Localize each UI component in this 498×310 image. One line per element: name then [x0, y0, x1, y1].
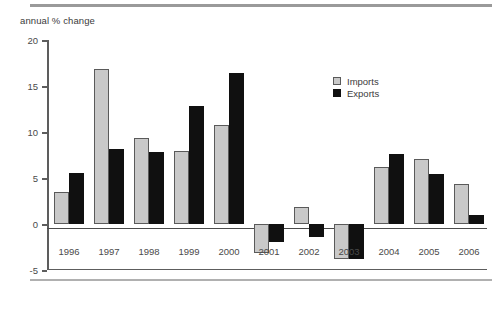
y-tick-mark — [42, 178, 47, 180]
legend-swatch-icon-exports — [333, 89, 341, 97]
bar-imports-2000 — [214, 125, 229, 224]
x-tick-label-1998: 1998 — [138, 246, 159, 257]
y-tick-label: 20 — [27, 35, 38, 46]
y-tick-label: 10 — [27, 127, 38, 138]
y-tick-mark — [42, 86, 47, 88]
y-tick-label: 0 — [33, 219, 38, 230]
bar-exports-2001 — [269, 224, 284, 242]
y-axis-caption: annual % change — [20, 15, 95, 26]
legend-item-exports[interactable]: Exports — [333, 87, 379, 99]
bar-exports-1997 — [109, 149, 124, 224]
x-tick-label-2002: 2002 — [298, 246, 319, 257]
chart-plot-area: 20151050-5 — [47, 40, 487, 270]
y-tick-label: 15 — [27, 81, 38, 92]
y-tick-mark — [42, 270, 47, 272]
x-tick-label-1999: 1999 — [178, 246, 199, 257]
top-divider-rule — [30, 4, 492, 7]
legend-label-imports: Imports — [347, 76, 379, 87]
bar-exports-1998 — [149, 152, 164, 224]
legend-label-exports: Exports — [347, 88, 379, 99]
chart-legend: Imports Exports — [333, 75, 379, 99]
y-axis-spine — [47, 40, 49, 270]
bar-imports-2004 — [374, 167, 389, 224]
x-tick-label-2006: 2006 — [458, 246, 479, 257]
y-tick-mark — [42, 132, 47, 134]
bar-exports-2006 — [469, 215, 484, 224]
y-tick-label: 5 — [33, 173, 38, 184]
x-tick-label-2001: 2001 — [258, 246, 279, 257]
legend-swatch-icon-imports — [333, 77, 341, 85]
bar-imports-2002 — [294, 207, 309, 224]
bar-exports-2004 — [389, 154, 404, 224]
x-tick-label-2005: 2005 — [418, 246, 439, 257]
y-tick-label: -5 — [30, 265, 38, 276]
y-tick-mark — [42, 40, 47, 42]
y-tick-mark — [42, 224, 47, 226]
x-tick-label-2004: 2004 — [378, 246, 399, 257]
x-tick-label-2003: 2003 — [338, 246, 359, 257]
bar-imports-1997 — [94, 69, 109, 224]
bar-imports-1996 — [54, 192, 69, 224]
bar-exports-2005 — [429, 174, 444, 224]
bar-exports-2002 — [309, 224, 324, 237]
x-tick-label-2000: 2000 — [218, 246, 239, 257]
bar-exports-1996 — [69, 173, 84, 224]
bar-imports-1999 — [174, 151, 189, 224]
bottom-divider-rule — [30, 279, 492, 281]
bar-imports-1998 — [134, 138, 149, 224]
bar-exports-1999 — [189, 106, 204, 224]
bar-exports-2000 — [229, 73, 244, 224]
bar-imports-2005 — [414, 159, 429, 224]
x-tick-label-1996: 1996 — [58, 246, 79, 257]
bar-imports-2006 — [454, 184, 469, 224]
x-axis-spine — [47, 269, 487, 271]
legend-item-imports[interactable]: Imports — [333, 75, 379, 87]
x-tick-label-1997: 1997 — [98, 246, 119, 257]
